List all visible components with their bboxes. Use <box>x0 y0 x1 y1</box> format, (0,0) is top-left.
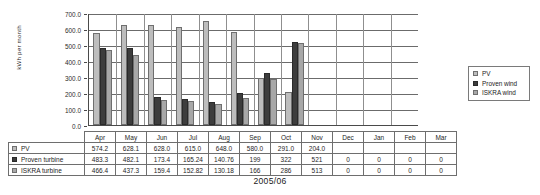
y-tick-label: 100.0 <box>65 107 81 114</box>
table-cell: 521 <box>302 154 333 165</box>
bar-group <box>281 14 308 125</box>
table-col-header: Jul <box>178 132 209 143</box>
table-cell: 204.0 <box>302 143 333 154</box>
table-col-header: Apr <box>85 132 116 143</box>
table-cell: 199 <box>240 154 271 165</box>
bar-group <box>116 14 143 125</box>
bar-iskra <box>106 50 112 125</box>
y-tick-mark <box>84 94 87 95</box>
bar-group <box>363 14 390 125</box>
chart-caption: 2005/06 <box>0 176 540 186</box>
table-cell: 0 <box>395 165 426 176</box>
legend-item-label: Proven wind <box>482 80 517 88</box>
chart-legend: PVProven windISKRA wind <box>468 66 530 101</box>
table-row-header: ISKRA turbine <box>9 165 85 176</box>
legend-item-label: PV <box>482 70 491 78</box>
bar-iskra <box>133 55 139 125</box>
table-col-header: Jun <box>147 132 178 143</box>
bar-iskra <box>161 100 167 126</box>
bar-group <box>336 14 363 125</box>
y-tick-mark <box>84 126 87 127</box>
legend-item-pv: PV <box>473 70 526 78</box>
table-cell: 0 <box>364 154 395 165</box>
table-cell <box>426 143 457 154</box>
table-cell: 483.3 <box>85 154 116 165</box>
table-col-header: Nov <box>302 132 333 143</box>
bar-iskra <box>270 79 276 125</box>
bar-iskra <box>298 43 304 125</box>
table-row: Proven turbine483.3482.1173.4165.24140.7… <box>9 154 457 165</box>
table-col-header: Aug <box>209 132 240 143</box>
table-row-label: PV <box>21 145 30 152</box>
table-cell: 574.2 <box>85 143 116 154</box>
table-cell: 648.0 <box>209 143 240 154</box>
table-cell: 0 <box>364 165 395 176</box>
bar-group <box>308 14 335 125</box>
table-cell: 615.0 <box>178 143 209 154</box>
table-col-header: Feb <box>395 132 426 143</box>
table-cell: 482.1 <box>116 154 147 165</box>
table-cell: 291.0 <box>271 143 302 154</box>
y-tick-label: 0.0 <box>72 123 81 130</box>
bar-group <box>89 14 116 125</box>
table-row: ISKRA turbine466.4437.3159.4152.82130.18… <box>9 165 457 176</box>
legend-item-proven: Proven wind <box>473 80 526 88</box>
table-cell: 437.3 <box>116 165 147 176</box>
y-tick-label: 400.0 <box>65 59 81 66</box>
legend-swatch-icon <box>473 90 478 95</box>
table-cell: 513 <box>302 165 333 176</box>
plot-area <box>88 14 418 126</box>
bar-group <box>199 14 226 125</box>
row-swatch-icon <box>12 157 17 162</box>
table-col-header: Oct <box>271 132 302 143</box>
row-swatch-icon <box>12 168 17 173</box>
table-cell: 466.4 <box>85 165 116 176</box>
table-corner-cell <box>9 132 85 143</box>
table-cell <box>364 143 395 154</box>
bar-group <box>171 14 198 125</box>
y-axis-tick-labels: 0.0100.0200.0300.0400.0500.0600.0700.0 <box>42 4 84 126</box>
bar-iskra <box>188 101 194 125</box>
table-cell: 166 <box>240 165 271 176</box>
table-cell: 286 <box>271 165 302 176</box>
table-cell: 628.0 <box>147 143 178 154</box>
y-tick-mark <box>84 30 87 31</box>
table-cell: 159.4 <box>147 165 178 176</box>
legend-item-iskra: ISKRA wind <box>473 89 526 97</box>
legend-item-label: ISKRA wind <box>482 89 516 97</box>
table-body: PV574.2628.1628.0615.0648.0580.0291.0204… <box>9 143 457 176</box>
table-cell: 580.0 <box>240 143 271 154</box>
table-cell: 130.18 <box>209 165 240 176</box>
y-axis-title: kWh per month <box>15 8 22 88</box>
data-table: AprMayJunJulAugSepOctNovDecJanFebMar PV5… <box>8 131 457 176</box>
y-tick-label: 300.0 <box>65 75 81 82</box>
table-col-header: May <box>116 132 147 143</box>
y-tick-mark <box>84 46 87 47</box>
table-cell: 173.4 <box>147 154 178 165</box>
table-cell: 140.76 <box>209 154 240 165</box>
table-cell: 628.1 <box>116 143 147 154</box>
table-row-header: PV <box>9 143 85 154</box>
table-row-label: ISKRA turbine <box>21 167 62 174</box>
y-tick-mark <box>84 78 87 79</box>
legend-swatch-icon <box>473 81 478 86</box>
bar-iskra <box>243 98 249 125</box>
table-cell <box>333 143 364 154</box>
row-swatch-icon <box>12 146 17 151</box>
table-cell <box>395 143 426 154</box>
bar-chart: kWh per month 0.0100.0200.0300.0400.0500… <box>0 4 540 126</box>
bar-group <box>144 14 171 125</box>
table-cell: 152.82 <box>178 165 209 176</box>
table-cell: 0 <box>426 165 457 176</box>
table-header-row: AprMayJunJulAugSepOctNovDecJanFebMar <box>9 132 457 143</box>
bar-group <box>254 14 281 125</box>
y-tick-mark <box>84 110 87 111</box>
bar-iskra <box>215 104 221 125</box>
table-row-header: Proven turbine <box>9 154 85 165</box>
bar-group <box>226 14 253 125</box>
y-tick-label: 200.0 <box>65 91 81 98</box>
table-cell: 165.24 <box>178 154 209 165</box>
y-tick-label: 500.0 <box>65 43 81 50</box>
table-col-header: Jan <box>364 132 395 143</box>
table-col-header: Dec <box>333 132 364 143</box>
